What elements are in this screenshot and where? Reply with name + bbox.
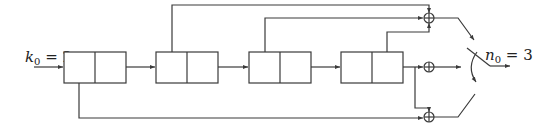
tap-r1-bottom: [79, 83, 423, 118]
adder-bottom: [424, 112, 434, 122]
encoder-diagram: k0 = 2: [0, 0, 545, 131]
register-4: [341, 52, 403, 83]
output-label: n0 = 3: [485, 46, 533, 65]
tap-r3-top: [265, 18, 423, 52]
adder-middle: [424, 62, 434, 72]
switch-arc: [471, 52, 477, 82]
tap-r2-top: [172, 5, 429, 52]
register-1: [64, 52, 126, 83]
register-2: [156, 52, 218, 83]
tap-r4-top: [387, 23, 429, 52]
out-top: [434, 18, 474, 40]
out-bottom: [434, 94, 475, 117]
tap-r4-bottom: [415, 67, 429, 112]
register-3: [249, 52, 311, 83]
adder-top: [424, 13, 434, 23]
